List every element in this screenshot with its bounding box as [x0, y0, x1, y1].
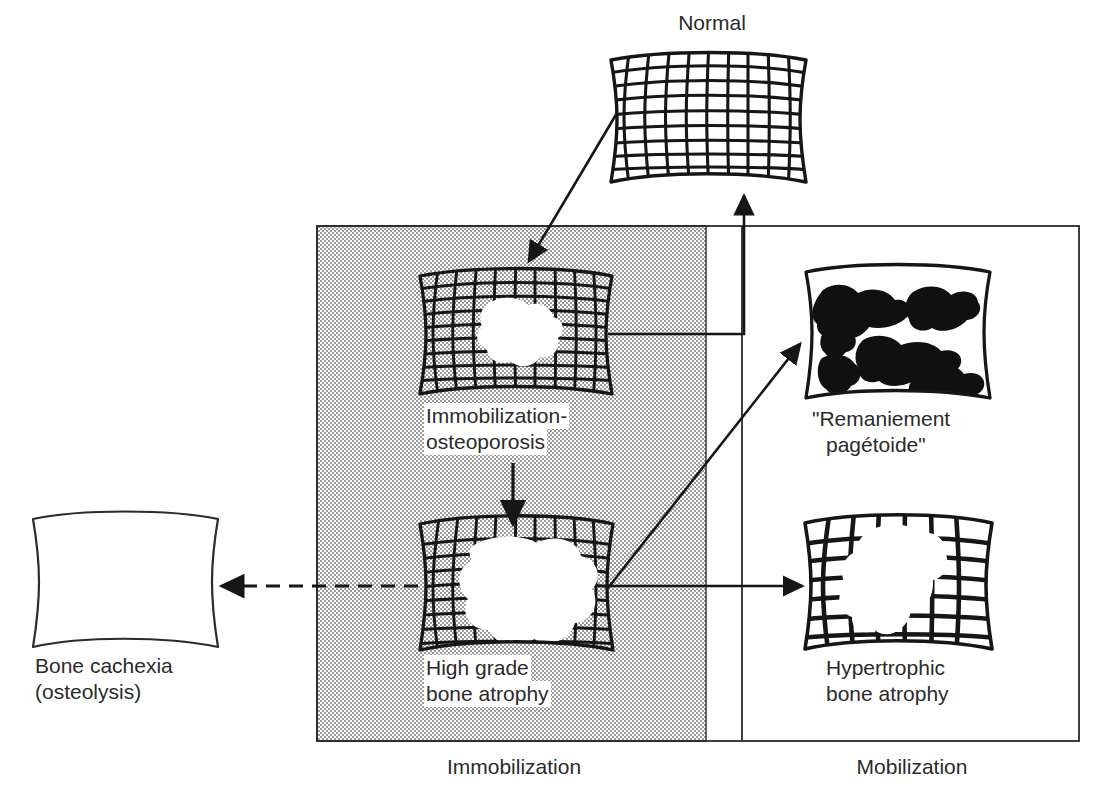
node-label-bone-cachexia-line2: (osteolysis) — [33, 679, 143, 705]
node-label-hypertrophic-line2: bone atrophy — [824, 681, 951, 707]
node-label-immobilization-osteoporosis-line2: osteoporosis — [424, 429, 547, 455]
node-hypertrophic-bone-atrophy — [796, 510, 1001, 657]
node-remaniement-pagetoide — [806, 265, 990, 406]
diagram-stage: Normal Immobilization- osteoporosis High… — [0, 0, 1106, 803]
node-label-remaniement-line2: pagétoide" — [824, 432, 928, 458]
zone-label-immobilization: Immobilization — [432, 754, 596, 780]
node-bone-cachexia — [33, 512, 218, 648]
node-label-bone-cachexia-line1: Bone cachexia — [33, 653, 175, 679]
node-label-high-grade-line2: bone atrophy — [424, 681, 551, 707]
node-label-hypertrophic-line1: Hypertrophic — [824, 655, 947, 681]
zone-label-mobilization: Mobilization — [830, 754, 994, 780]
node-label-immobilization-osteoporosis-line1: Immobilization- — [424, 403, 569, 429]
node-normal — [600, 42, 816, 192]
node-label-high-grade-line1: High grade — [424, 655, 531, 681]
node-label-remaniement-line1: "Remaniement — [810, 406, 952, 432]
node-label-normal: Normal — [660, 10, 764, 36]
